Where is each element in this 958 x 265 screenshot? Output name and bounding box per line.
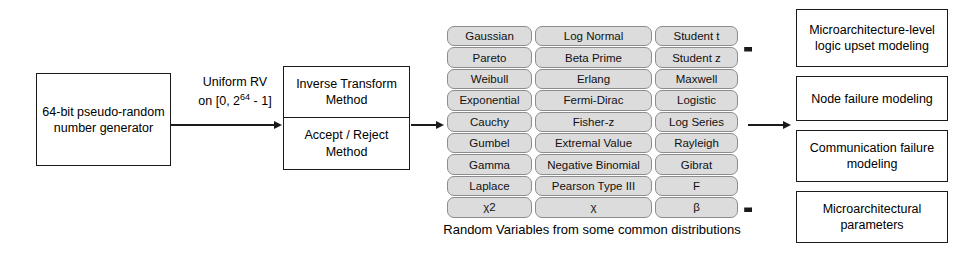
- uniform-rv-line2: on [0, 264 - 1]: [176, 91, 294, 110]
- uniform-rv-line1: Uniform RV: [176, 73, 294, 91]
- distribution-cell: Log Normal: [535, 26, 652, 46]
- distribution-cell: Exponential: [447, 90, 532, 110]
- output-label-1: Node failure modeling: [811, 91, 933, 107]
- output-box-microarchitectural-parameters: Microarchitectural parameters: [796, 191, 948, 243]
- uniform-rv-exponent: 64: [240, 92, 250, 102]
- distribution-cell: Fisher-z: [535, 112, 652, 132]
- output-box-node-failure: Node failure modeling: [796, 76, 948, 121]
- diagram-canvas: 64-bit pseudo-random number generator Un…: [0, 0, 958, 265]
- output-label-3: Microarchitectural parameters: [801, 201, 943, 233]
- distribution-cell: Pareto: [447, 47, 532, 67]
- distribution-cell: Pearson Type III: [535, 176, 652, 196]
- distribution-cell: Erlang: [535, 69, 652, 89]
- output-box-communication-failure: Communication failure modeling: [796, 130, 948, 182]
- uniform-rv-range-prefix: on [0, 2: [198, 94, 240, 108]
- output-label-0: Microarchitecture-level logic upset mode…: [801, 22, 943, 54]
- arrow-grid-to-outputs-line: [748, 124, 784, 126]
- grid-closing-brace: }: [726, 22, 752, 214]
- arrow-prng-to-methods-head: [274, 121, 282, 129]
- arrow-methods-to-grid-line: [411, 124, 437, 126]
- distribution-cell: Weibull: [447, 69, 532, 89]
- arrow-grid-to-outputs-head: [783, 121, 791, 129]
- output-box-microarchitecture-logic-upset: Microarchitecture-level logic upset mode…: [796, 9, 948, 67]
- prng-source-label: 64-bit pseudo-random number generator: [37, 104, 170, 136]
- distribution-cell: Gumbel: [447, 133, 532, 153]
- method-inverse-transform: Inverse Transform Method: [284, 67, 409, 118]
- output-label-2: Communication failure modeling: [801, 140, 943, 172]
- method-accept-reject-label: Accept / Reject Method: [287, 127, 406, 160]
- distribution-cell: Beta Prime: [535, 47, 652, 67]
- distribution-cell: χ2: [447, 197, 532, 217]
- distribution-cell: Laplace: [447, 176, 532, 196]
- arrow-methods-to-grid-head: [436, 121, 444, 129]
- sampling-methods-block: Inverse Transform Method Accept / Reject…: [283, 66, 410, 170]
- distribution-cell: χ: [535, 197, 652, 217]
- arrow-prng-to-methods-line: [171, 124, 274, 126]
- prng-source-block: 64-bit pseudo-random number generator: [36, 73, 171, 166]
- method-accept-reject: Accept / Reject Method: [284, 118, 409, 169]
- distribution-cell: Gaussian: [447, 26, 532, 46]
- distribution-cell: Extremal Value: [535, 133, 652, 153]
- uniform-rv-range-suffix: - 1]: [250, 94, 272, 108]
- distribution-cell: Cauchy: [447, 112, 532, 132]
- method-inverse-transform-label: Inverse Transform Method: [287, 76, 406, 109]
- distributions-grid: GaussianLog NormalStudent tParetoBeta Pr…: [447, 26, 738, 218]
- distribution-cell: Fermi-Dirac: [535, 90, 652, 110]
- distribution-cell: Negative Binomial: [535, 154, 652, 174]
- distributions-caption: Random Variables from some common distri…: [392, 222, 792, 237]
- uniform-rv-label: Uniform RV on [0, 264 - 1]: [176, 73, 294, 110]
- distribution-cell: Gamma: [447, 154, 532, 174]
